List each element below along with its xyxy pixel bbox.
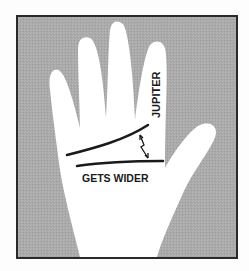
jupiter-label: JUPITER xyxy=(150,71,162,118)
hand-illustration: JUPITER GETS WIDER xyxy=(0,0,249,271)
palmistry-diagram: JUPITER GETS WIDER xyxy=(0,0,249,271)
gets-wider-label: GETS WIDER xyxy=(82,172,149,184)
